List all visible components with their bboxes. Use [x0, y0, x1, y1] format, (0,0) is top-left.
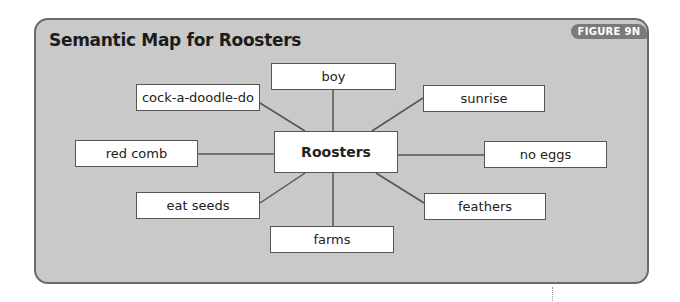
line-eatseeds	[260, 173, 305, 203]
dotted-guide-mark	[552, 287, 554, 301]
line-feathers	[376, 173, 424, 203]
node-sunrise: sunrise	[423, 85, 545, 112]
node-eat-seeds: eat seeds	[136, 192, 260, 219]
node-cock-a-doodle-do: cock-a-doodle-do	[136, 84, 260, 111]
line-cock	[260, 103, 305, 131]
node-center-roosters: Roosters	[274, 131, 398, 173]
node-feathers: feathers	[424, 193, 546, 220]
node-red-comb: red comb	[75, 140, 198, 167]
line-sunrise	[372, 98, 423, 131]
figure-badge: FIGURE 9N	[571, 24, 647, 39]
figure-title: Semantic Map for Roosters	[49, 30, 301, 50]
node-farms: farms	[270, 226, 394, 253]
node-boy: boy	[271, 63, 396, 90]
node-no-eggs: no eggs	[484, 141, 607, 168]
